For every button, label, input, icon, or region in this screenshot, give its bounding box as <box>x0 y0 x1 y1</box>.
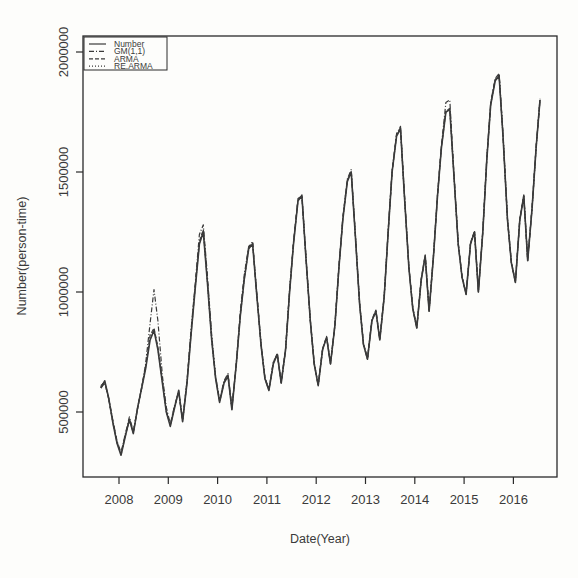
x-tick-label: 2014 <box>400 492 429 507</box>
x-tick-label: 2010 <box>203 492 232 507</box>
series-line-gm-1-1- <box>101 74 540 453</box>
x-tick-label: 2009 <box>154 492 183 507</box>
legend-label: RE.ARMA <box>114 61 153 71</box>
series-line-re-arma <box>101 76 540 455</box>
series-line-arma <box>101 75 540 454</box>
x-axis-title: Date(Year) <box>290 532 350 546</box>
x-tick-label: 2013 <box>351 492 380 507</box>
y-tick-label: 2000000 <box>56 27 71 78</box>
y-tick-label: 1000000 <box>56 267 71 318</box>
x-tick-label: 2008 <box>105 492 134 507</box>
series-line-number <box>101 76 540 455</box>
x-tick-label: 2011 <box>253 492 281 507</box>
series-layer <box>101 74 540 456</box>
legend: NumberGM(1,1)ARMARE.ARMA <box>84 37 167 71</box>
x-axis: 200820092010201120122013201420152016 <box>105 477 528 507</box>
y-tick-label: 500000 <box>56 390 71 433</box>
y-axis: 500000100000015000002000000 <box>56 27 83 434</box>
plot-area <box>83 36 557 477</box>
line-chart: 500000100000015000002000000 200820092010… <box>0 0 578 578</box>
x-tick-label: 2016 <box>499 492 528 507</box>
x-tick-label: 2015 <box>450 492 479 507</box>
y-axis-title: Number(person-time) <box>15 197 29 316</box>
y-tick-label: 1500000 <box>56 147 71 198</box>
plot-frame <box>83 36 557 477</box>
x-tick-label: 2012 <box>302 492 331 507</box>
